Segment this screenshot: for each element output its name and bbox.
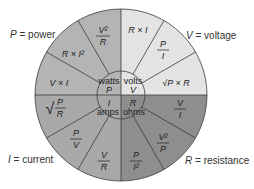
formula-r-times-i: R × I <box>128 25 148 35</box>
amps-unit: amps <box>97 107 120 117</box>
svg-text:R: R <box>57 109 64 119</box>
svg-text:√: √ <box>46 100 55 117</box>
svg-text:P: P <box>160 144 166 154</box>
svg-text:R: R <box>101 162 108 172</box>
svg-text:P: P <box>133 150 139 160</box>
svg-text:P: P <box>57 97 63 107</box>
volts-var: V <box>130 85 137 95</box>
svg-text:R: R <box>100 37 107 47</box>
svg-text:P: P <box>160 39 166 49</box>
ohms-unit: ohms <box>123 107 146 117</box>
watts-var: P <box>106 85 112 95</box>
svg-text:P: P <box>73 128 79 138</box>
svg-text:V²: V² <box>159 132 169 142</box>
formula-v-times-i: V × I <box>50 78 69 88</box>
svg-text:V: V <box>177 98 184 108</box>
label-power: P = power <box>10 29 55 40</box>
label-current: I = current <box>8 154 53 165</box>
formula-r-times-i2: R × I² <box>62 49 85 59</box>
formula-sqrt-p-times-r: √P × R <box>162 78 190 88</box>
label-voltage: V = voltage <box>186 30 236 41</box>
svg-text:V: V <box>101 150 108 160</box>
label-resistance: R = resistance <box>185 155 249 166</box>
svg-text:V: V <box>73 140 80 150</box>
svg-text:V²: V² <box>99 25 109 35</box>
